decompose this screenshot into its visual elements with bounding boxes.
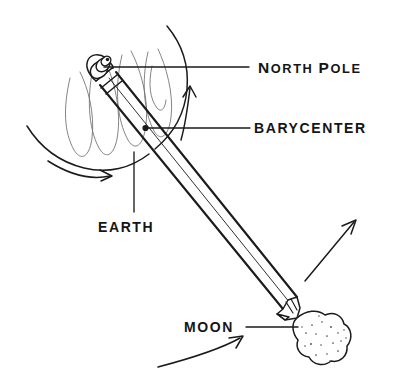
arrow-earth-rotation-right [181, 86, 196, 140]
label-earth-text: EARTH [98, 219, 154, 235]
label-north-pole-rest: ORTH [271, 61, 314, 76]
arrow-moon-orbit-lower [158, 336, 243, 367]
label-barycenter-text: BARYCENTER [254, 120, 367, 136]
leader-lines [104, 67, 298, 327]
diagram-canvas: NORTH POLE BARYCENTER EARTH MOON [0, 0, 412, 392]
label-north-pole-lead: N [258, 59, 271, 76]
arrow-earth-rotation-bottom [48, 161, 112, 181]
earth-circle [27, 26, 187, 170]
label-north-pole-lead2: P [319, 59, 331, 76]
earth-meridian-waves [65, 49, 171, 156]
svg-text:NORTH POLE: NORTH POLE [258, 59, 362, 76]
label-barycenter: BARYCENTER [254, 120, 367, 136]
label-moon: MOON [184, 319, 234, 335]
label-north-pole-rest2: OLE [331, 61, 362, 76]
diagram-root: NORTH POLE BARYCENTER EARTH MOON [0, 0, 412, 392]
label-earth: EARTH [98, 219, 154, 235]
label-moon-text: MOON [184, 319, 234, 335]
arrow-moon-orbit-upper [305, 220, 356, 281]
pencil [87, 54, 300, 320]
label-north-pole: NORTH POLE [258, 59, 362, 76]
pencil-tip [277, 297, 300, 320]
moon-blob [293, 311, 351, 364]
